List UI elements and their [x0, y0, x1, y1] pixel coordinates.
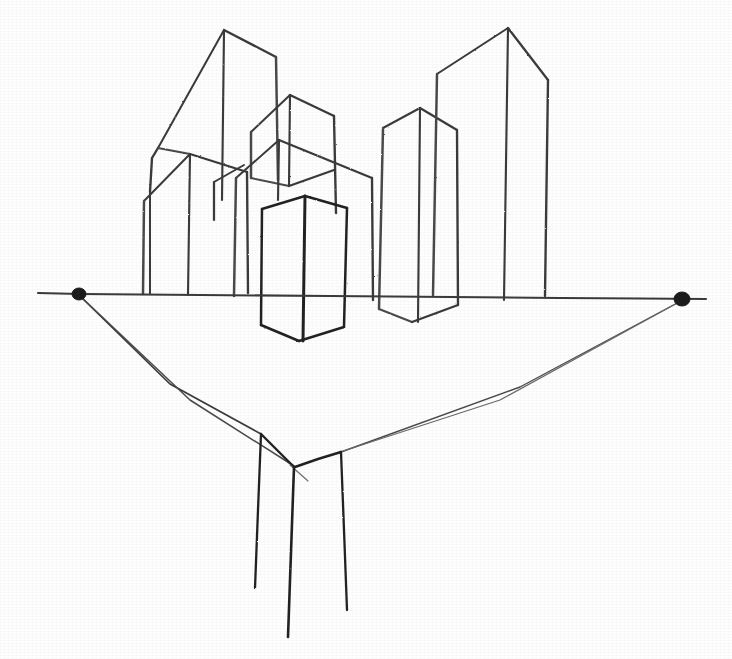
building-right-near-stroke [383, 108, 420, 128]
building-right-tall-stroke [433, 74, 437, 295]
building-right-tall-stroke [508, 28, 548, 80]
building-tall-left-stroke [158, 148, 190, 154]
building-left-front-stroke [188, 154, 190, 295]
left-vanishing-point-dot[interactable] [72, 288, 86, 300]
building-right-tall-stroke [504, 28, 508, 300]
building-right-tall-stroke [545, 80, 548, 296]
right-vp-to-bottom-vertex-line [294, 301, 681, 467]
building-left-front-stroke [247, 172, 248, 293]
building-right-near [379, 108, 458, 322]
building-mid-lower-stroke [234, 178, 236, 296]
building-left-front [143, 154, 248, 295]
building-right-near-stroke [379, 309, 412, 322]
building-mid-upper-stroke [289, 95, 290, 186]
building-center-front-stroke [261, 209, 262, 325]
building-mid-upper-stroke [334, 116, 336, 213]
building-center-front-stroke [305, 196, 347, 208]
building-left-front-stroke [143, 201, 144, 294]
building-tall-left-stroke [158, 30, 224, 148]
building-right-near-stroke [457, 130, 458, 305]
building-center-front-stroke [261, 325, 299, 341]
building-mid-upper-stroke [251, 95, 290, 132]
building-mid-lower-stroke [236, 140, 279, 178]
building-center-front-stroke [303, 196, 305, 341]
building-center-front [261, 196, 347, 341]
building-center-front-stroke [344, 208, 347, 327]
building-mid-small-stroke [214, 165, 244, 182]
perspective-drawing [0, 0, 732, 659]
building-mid-upper-stroke [290, 95, 334, 116]
building-tall-left-stroke [222, 30, 224, 200]
building-mid-lower-stroke [372, 178, 373, 300]
building-mid-upper-stroke [289, 170, 334, 186]
building-mid-small [214, 165, 244, 220]
building-center-front-stroke [299, 327, 344, 341]
right-vp-to-near-corner-line [341, 301, 681, 452]
foreground-vertical-center [288, 467, 294, 637]
near-corner-left-edge-line [261, 434, 294, 467]
building-right-near-stroke [418, 108, 420, 322]
building-center-front-stroke [262, 196, 305, 209]
convergence-lines-group [80, 296, 681, 481]
building-right-tall-stroke [437, 28, 508, 74]
building-right-tall [433, 28, 548, 300]
building-tall-left-stroke [150, 148, 158, 192]
building-left-front-stroke [190, 154, 247, 172]
foreground-vertical-right [341, 452, 347, 610]
right-vanishing-point-dot[interactable] [674, 292, 690, 306]
near-corner-right-edge-line [295, 452, 341, 467]
left-vp-to-near-corner-line [80, 296, 261, 434]
building-tall-left-stroke [224, 30, 276, 57]
sketch-canvas [0, 0, 732, 659]
foreground-vertical-left [255, 434, 261, 588]
building-right-near-stroke [420, 108, 457, 130]
building-mid-lower-stroke [278, 140, 279, 200]
building-right-near-stroke [379, 128, 383, 309]
building-mid-upper-stroke [251, 178, 289, 186]
